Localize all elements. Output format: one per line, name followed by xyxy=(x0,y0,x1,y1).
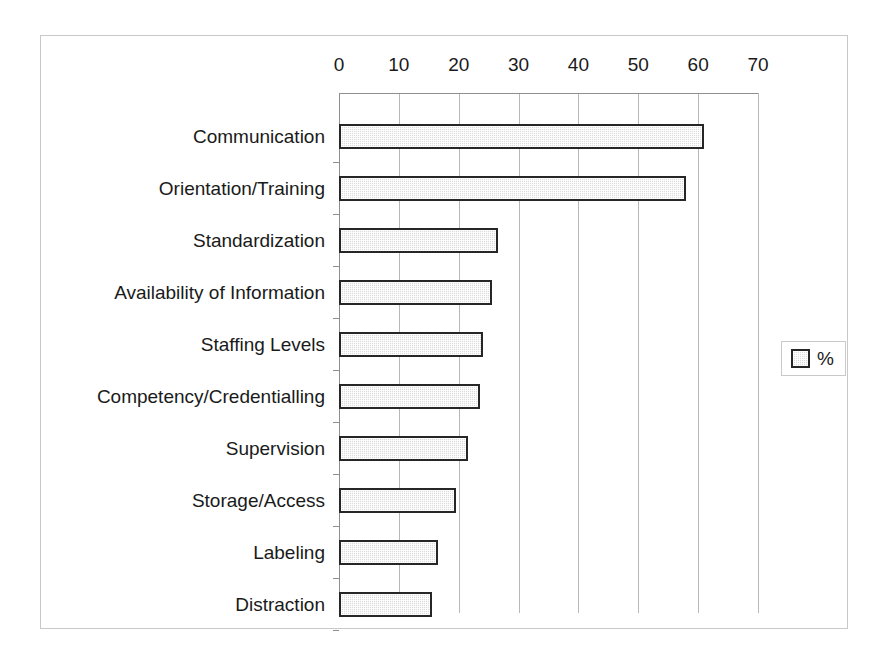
x-tick-label-10: 10 xyxy=(388,54,409,76)
category-label-row: Standardization xyxy=(41,215,333,267)
bar-row xyxy=(339,527,758,579)
bar-orientation-training xyxy=(339,176,686,201)
x-tick-label-60: 60 xyxy=(688,54,709,76)
category-label-row: Competency/Credentialling xyxy=(41,371,333,423)
category-label: Distraction xyxy=(235,594,333,616)
x-tick-label-20: 20 xyxy=(448,54,469,76)
bar-row xyxy=(339,475,758,527)
bar-row xyxy=(339,423,758,475)
bar-distraction xyxy=(339,592,432,617)
bar-communication xyxy=(339,124,704,149)
category-label-row: Communication xyxy=(41,111,333,163)
y-axis-category-labels: CommunicationOrientation/TrainingStandar… xyxy=(41,93,333,613)
bar-row xyxy=(339,319,758,371)
category-label: Staffing Levels xyxy=(201,334,333,356)
category-label: Labeling xyxy=(253,542,333,564)
category-label-row: Supervision xyxy=(41,423,333,475)
bar-competency-credentialling xyxy=(339,384,480,409)
category-label: Orientation/Training xyxy=(159,178,333,200)
x-tick-label-50: 50 xyxy=(628,54,649,76)
bar-row xyxy=(339,163,758,215)
category-label-row: Labeling xyxy=(41,527,333,579)
gridline-70 xyxy=(758,93,759,613)
legend: % xyxy=(781,341,846,376)
bar-row xyxy=(339,111,758,163)
bar-row xyxy=(339,579,758,631)
bar-standardization xyxy=(339,228,498,253)
chart-page: { "chart_data": { "type": "bar", "orient… xyxy=(0,0,882,664)
legend-label-percent: % xyxy=(817,349,834,368)
bar-labeling xyxy=(339,540,438,565)
bar-row xyxy=(339,371,758,423)
category-label-row: Distraction xyxy=(41,579,333,631)
category-label-row: Orientation/Training xyxy=(41,163,333,215)
bar-row xyxy=(339,267,758,319)
legend-swatch-percent xyxy=(791,349,810,368)
bar-staffing-levels xyxy=(339,332,483,357)
category-label: Storage/Access xyxy=(192,490,333,512)
bar-availability-of-information xyxy=(339,280,492,305)
chart-frame: 010203040506070 CommunicationOrientation… xyxy=(40,35,848,629)
x-tick-label-30: 30 xyxy=(508,54,529,76)
category-label: Availability of Information xyxy=(114,282,333,304)
bar-supervision xyxy=(339,436,468,461)
x-axis-tick-labels: 010203040506070 xyxy=(41,54,847,76)
y-axis-tick-mark xyxy=(333,630,339,631)
category-label: Communication xyxy=(193,126,333,148)
x-tick-label-70: 70 xyxy=(747,54,768,76)
x-tick-label-40: 40 xyxy=(568,54,589,76)
bar-series xyxy=(339,93,758,613)
category-label-row: Storage/Access xyxy=(41,475,333,527)
bar-row xyxy=(339,215,758,267)
category-label-row: Staffing Levels xyxy=(41,319,333,371)
category-label: Supervision xyxy=(226,438,333,460)
category-label: Competency/Credentialling xyxy=(97,386,333,408)
x-tick-label-0: 0 xyxy=(334,54,345,76)
plot-area xyxy=(339,93,758,613)
category-label-row: Availability of Information xyxy=(41,267,333,319)
category-label: Standardization xyxy=(193,230,333,252)
bar-storage-access xyxy=(339,488,456,513)
